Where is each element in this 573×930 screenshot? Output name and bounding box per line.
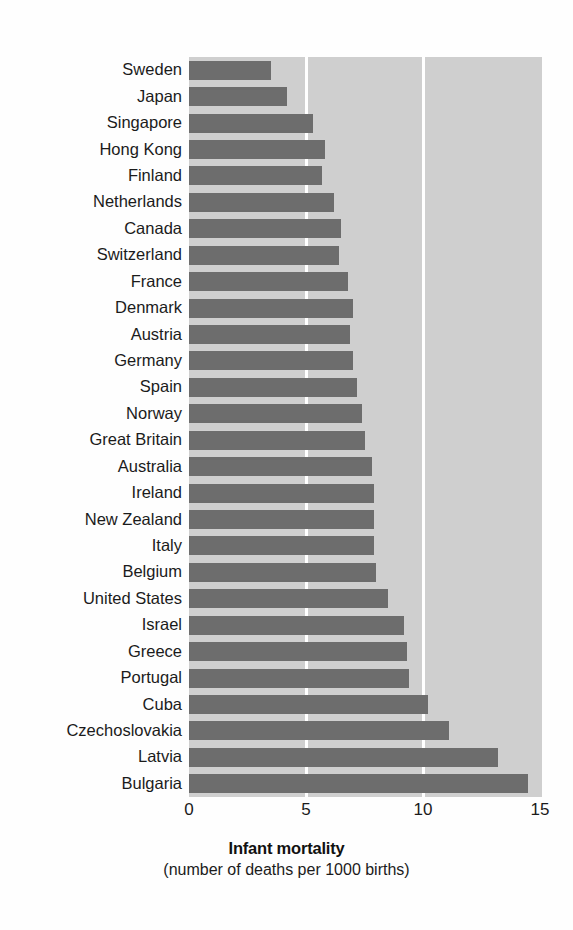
category-label: New Zealand xyxy=(0,510,182,529)
category-label: Sweden xyxy=(0,60,182,79)
category-label: Bulgaria xyxy=(0,774,182,793)
bar xyxy=(189,484,374,503)
category-label: Singapore xyxy=(0,113,182,132)
category-label: Germany xyxy=(0,351,182,370)
category-label: Czechoslovakia xyxy=(0,721,182,740)
gridline-10 xyxy=(422,57,425,797)
bar xyxy=(189,378,357,397)
bar xyxy=(189,325,350,344)
bar xyxy=(189,695,428,714)
bar xyxy=(189,166,322,185)
bar xyxy=(189,219,341,238)
category-label: Hong Kong xyxy=(0,140,182,159)
category-label: Canada xyxy=(0,219,182,238)
category-label: Latvia xyxy=(0,747,182,766)
category-label: Austria xyxy=(0,325,182,344)
category-label: Italy xyxy=(0,536,182,555)
axis-caption: Infant mortality (number of deaths per 1… xyxy=(0,838,573,880)
x-axis-tick-labels: 051015 xyxy=(189,800,542,824)
category-label: Ireland xyxy=(0,483,182,502)
bar xyxy=(189,589,388,608)
plot-area xyxy=(189,57,542,797)
category-label: Spain xyxy=(0,377,182,396)
category-label: Israel xyxy=(0,615,182,634)
category-label: Japan xyxy=(0,87,182,106)
x-tick-0: 0 xyxy=(184,800,193,820)
category-axis-labels: SwedenJapanSingaporeHong KongFinlandNeth… xyxy=(0,57,182,797)
x-tick-5: 5 xyxy=(301,800,310,820)
category-label: Australia xyxy=(0,457,182,476)
bar xyxy=(189,87,287,106)
x-tick-10: 10 xyxy=(414,800,433,820)
bar xyxy=(189,246,339,265)
category-label: Portugal xyxy=(0,668,182,687)
category-label: Greece xyxy=(0,642,182,661)
bar xyxy=(189,563,376,582)
category-label: France xyxy=(0,272,182,291)
category-label: Great Britain xyxy=(0,430,182,449)
category-label: Belgium xyxy=(0,562,182,581)
bar xyxy=(189,114,313,133)
bar xyxy=(189,61,271,80)
x-tick-15: 15 xyxy=(531,800,550,820)
bar xyxy=(189,669,409,688)
axis-title: Infant mortality xyxy=(0,838,573,859)
bar xyxy=(189,457,372,476)
bar xyxy=(189,431,365,450)
axis-subtitle: (number of deaths per 1000 births) xyxy=(0,859,573,880)
bar xyxy=(189,404,362,423)
bar xyxy=(189,140,325,159)
bar xyxy=(189,193,334,212)
category-label: United States xyxy=(0,589,182,608)
category-label: Norway xyxy=(0,404,182,423)
bar xyxy=(189,272,348,291)
bar xyxy=(189,536,374,555)
bar xyxy=(189,616,404,635)
infant-mortality-bar-chart: SwedenJapanSingaporeHong KongFinlandNeth… xyxy=(0,0,573,930)
bar xyxy=(189,721,449,740)
bar xyxy=(189,642,407,661)
bar xyxy=(189,351,353,370)
bar xyxy=(189,299,353,318)
category-label: Switzerland xyxy=(0,245,182,264)
bar xyxy=(189,748,498,767)
bar xyxy=(189,774,528,793)
category-label: Netherlands xyxy=(0,192,182,211)
category-label: Denmark xyxy=(0,298,182,317)
category-label: Cuba xyxy=(0,695,182,714)
category-label: Finland xyxy=(0,166,182,185)
bar xyxy=(189,510,374,529)
